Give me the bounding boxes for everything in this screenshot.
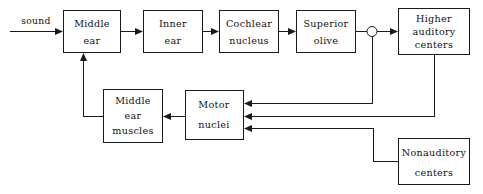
block-motor-nuclei-line-2: nuclei — [198, 119, 229, 130]
input-label-sound: sound — [21, 15, 50, 26]
auditory-pathway-diagram: sound Middle ear Inner ear Cochlear nucl… — [0, 0, 483, 194]
block-motor-nuclei-line-1: Motor — [198, 99, 229, 110]
block-inner-ear[interactable]: Inner ear — [144, 11, 203, 53]
block-superior-olive-line-2: olive — [314, 35, 339, 46]
connector-motor-nuclei-to-middle-ear-muscles — [163, 113, 185, 120]
block-nonauditory-centers[interactable]: Nonauditory centers — [399, 139, 470, 185]
connector-junction-to-higher-auditory-centers — [377, 28, 398, 35]
block-superior-olive[interactable]: Superior olive — [297, 11, 356, 53]
block-middle-ear-muscles-line-1: Middle — [115, 95, 151, 106]
connector-cochlear-nucleus-to-superior-olive — [279, 28, 296, 35]
block-higher-auditory-centers-line-1: Higher — [416, 13, 452, 24]
diagram-canvas: sound Middle ear Inner ear Cochlear nucl… — [0, 0, 483, 194]
olive-branch-junction-node — [367, 27, 377, 37]
block-cochlear-nucleus-line-2: nucleus — [229, 35, 269, 46]
block-inner-ear-line-1: Inner — [159, 18, 187, 29]
block-superior-olive-line-1: Superior — [304, 18, 349, 29]
block-inner-ear-line-2: ear — [165, 35, 182, 46]
block-middle-ear-muscles[interactable]: Middle ear muscles — [104, 90, 163, 143]
connector-middle-ear-muscles-to-middle-ear — [80, 53, 103, 117]
block-motor-nuclei[interactable]: Motor nuclei — [186, 91, 244, 140]
block-middle-ear-line-1: Middle — [74, 18, 110, 29]
connector-nonauditory-centers-to-motor-nuclei — [244, 125, 398, 162]
block-cochlear-nucleus[interactable]: Cochlear nucleus — [220, 11, 279, 53]
block-higher-auditory-centers-line-3: centers — [415, 39, 453, 50]
block-nonauditory-centers-line-2: centers — [415, 167, 453, 178]
connector-sound-to-middle-ear — [10, 28, 63, 35]
block-higher-auditory-centers-line-2: auditory — [412, 26, 455, 37]
block-middle-ear[interactable]: Middle ear — [64, 11, 121, 53]
block-higher-auditory-centers[interactable]: Higher auditory centers — [399, 9, 470, 55]
connector-middle-ear-to-inner-ear — [121, 28, 143, 35]
block-middle-ear-muscles-line-3: muscles — [112, 125, 153, 136]
block-nonauditory-centers-line-1: Nonauditory — [402, 147, 467, 158]
block-middle-ear-muscles-line-2: ear — [125, 110, 142, 121]
block-middle-ear-line-2: ear — [84, 35, 101, 46]
connector-inner-ear-to-cochlear-nucleus — [203, 28, 219, 35]
connector-higher-auditory-centers-to-motor-nuclei — [244, 55, 434, 120]
block-cochlear-nucleus-line-1: Cochlear — [226, 18, 272, 29]
